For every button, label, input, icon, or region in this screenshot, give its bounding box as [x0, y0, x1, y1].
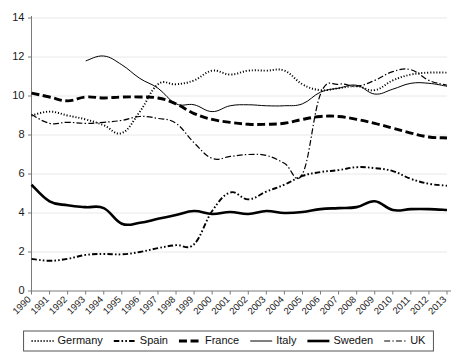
- x-axis-label-1997: 1997: [137, 294, 160, 317]
- x-axis-label-2011: 2011: [390, 294, 412, 316]
- y-axis-label-6: 6: [18, 167, 24, 179]
- legend-label-spain[interactable]: Spain: [140, 334, 168, 346]
- x-axis-label-1999: 1999: [173, 294, 196, 317]
- x-axis-label-1995: 1995: [101, 294, 124, 317]
- series-line-italy: [86, 56, 447, 112]
- x-axis-label-1992: 1992: [46, 294, 69, 317]
- x-axis-label-1991: 1991: [28, 294, 51, 317]
- y-axis-label-4: 4: [18, 206, 24, 218]
- x-axis-label-2000: 2000: [191, 294, 214, 317]
- y-axis-label-10: 10: [12, 89, 24, 101]
- x-axis-label-2010: 2010: [371, 294, 394, 317]
- legend-label-italy[interactable]: Italy: [276, 334, 297, 346]
- x-axis-label-2008: 2008: [335, 294, 358, 317]
- x-axis-label-2005: 2005: [281, 294, 304, 317]
- legend-label-uk[interactable]: UK: [410, 334, 426, 346]
- legend-label-france[interactable]: France: [205, 334, 239, 346]
- x-axis-label-1994: 1994: [82, 294, 105, 317]
- chart-legend: GermanySpainFranceItalySwedenUK: [24, 331, 434, 351]
- x-axis-label-2013: 2013: [426, 294, 449, 317]
- legend-label-germany[interactable]: Germany: [58, 334, 104, 346]
- x-axis-label-1993: 1993: [64, 294, 87, 317]
- data-series-layer: [32, 56, 448, 261]
- x-axis-label-2007: 2007: [317, 294, 340, 317]
- y-axis-label-12: 12: [12, 50, 24, 62]
- x-axis-label-2003: 2003: [245, 294, 268, 317]
- gridlines: [32, 18, 448, 252]
- x-axis-label-2004: 2004: [263, 294, 286, 317]
- chart-canvas: 02468101214 1990199119921993199419951996…: [0, 0, 457, 354]
- x-axis-label-1996: 1996: [119, 294, 142, 317]
- y-axis-label-2: 2: [18, 245, 24, 257]
- series-line-sweden: [32, 185, 448, 225]
- x-axis-tick-labels: 1990199119921993199419951996199719981999…: [10, 294, 448, 317]
- x-axis-label-2006: 2006: [299, 294, 322, 317]
- x-axis-label-2002: 2002: [227, 294, 250, 317]
- x-axis-label-1990: 1990: [10, 294, 33, 317]
- y-axis-label-14: 14: [12, 11, 24, 23]
- x-axis-label-2012: 2012: [408, 294, 431, 317]
- x-axis-label-2009: 2009: [353, 294, 376, 317]
- series-line-france: [32, 93, 448, 138]
- legend-label-sweden[interactable]: Sweden: [333, 334, 373, 346]
- x-axis-label-2001: 2001: [209, 294, 232, 317]
- y-axis-tick-labels: 02468101214: [12, 11, 24, 296]
- x-axis-label-1998: 1998: [155, 294, 178, 317]
- line-chart: 02468101214 1990199119921993199419951996…: [0, 0, 457, 354]
- y-axis-label-8: 8: [18, 128, 24, 140]
